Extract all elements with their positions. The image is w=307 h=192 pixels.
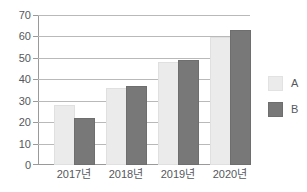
y-tick-label: 60 xyxy=(19,31,31,42)
bar-group-2017 xyxy=(49,15,99,165)
x-axis-labels: 2017년 2018년 2019년 2020년 xyxy=(39,168,250,188)
y-tick-label: 70 xyxy=(19,10,31,21)
legend-item-a: A xyxy=(268,76,306,90)
y-axis-labels: 70 60 50 40 30 20 10 0 xyxy=(0,0,36,192)
legend-swatch-a-icon xyxy=(268,76,283,91)
bar-2018-series-b xyxy=(126,86,147,165)
x-tick-label-2017: 2017년 xyxy=(49,168,99,181)
bar-chart: 70 60 50 40 30 20 10 0 xyxy=(0,0,307,192)
legend-item-b: B xyxy=(268,102,306,116)
y-tick-60 xyxy=(33,36,38,37)
y-tick-label: 10 xyxy=(19,139,31,150)
y-tick-label: 20 xyxy=(19,117,31,128)
y-tick-20 xyxy=(33,122,38,123)
bar-group-2018 xyxy=(101,15,151,165)
x-tick-label-2020: 2020년 xyxy=(205,168,255,181)
bar-2019-series-a xyxy=(158,62,179,165)
legend-label-b: B xyxy=(291,104,298,115)
x-tick-label-2018: 2018년 xyxy=(101,168,151,181)
bar-2020-series-b xyxy=(230,30,251,165)
bar-2019-series-b xyxy=(178,60,199,165)
y-tick-label: 40 xyxy=(19,74,31,85)
plot-area xyxy=(38,15,250,165)
y-tick-0 xyxy=(33,164,38,165)
chart-legend: A B xyxy=(268,76,306,128)
bar-2018-series-a xyxy=(106,88,127,165)
y-tick-label: 50 xyxy=(19,53,31,64)
bar-group-2020 xyxy=(205,15,255,165)
bars-layer xyxy=(39,15,250,165)
y-tick-70 xyxy=(33,15,38,16)
y-tick-label: 30 xyxy=(19,96,31,107)
y-tick-30 xyxy=(33,101,38,102)
bar-2017-series-b xyxy=(74,118,95,165)
legend-swatch-b-icon xyxy=(268,102,283,117)
bar-2020-series-a xyxy=(210,37,231,165)
bar-2017-series-a xyxy=(54,105,75,165)
x-tick-label-2019: 2019년 xyxy=(153,168,203,181)
bar-group-2019 xyxy=(153,15,203,165)
y-tick-40 xyxy=(33,79,38,80)
y-tick-10 xyxy=(33,144,38,145)
legend-label-a: A xyxy=(291,78,298,89)
y-tick-label: 0 xyxy=(25,160,31,171)
y-tick-50 xyxy=(33,58,38,59)
